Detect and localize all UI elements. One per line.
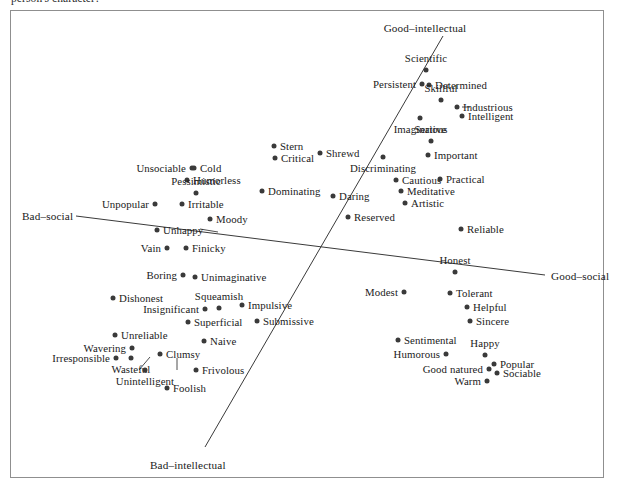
data-point-label: Serious bbox=[414, 124, 447, 135]
data-point-label: Warm bbox=[454, 376, 481, 387]
data-point-label: Important bbox=[434, 150, 477, 161]
data-point bbox=[485, 379, 490, 384]
data-point bbox=[448, 291, 453, 296]
data-point-label: Sentimental bbox=[404, 335, 457, 346]
data-point bbox=[394, 178, 399, 183]
data-point bbox=[194, 368, 199, 373]
data-point bbox=[429, 139, 434, 144]
data-point-label: Boring bbox=[146, 270, 177, 281]
data-point-label: Moody bbox=[216, 214, 248, 225]
data-point-label: Practical bbox=[446, 174, 485, 185]
data-point-label: Skillful bbox=[424, 83, 457, 94]
data-point bbox=[111, 296, 116, 301]
data-point bbox=[402, 290, 407, 295]
data-point-label: Dominating bbox=[268, 186, 321, 197]
data-point bbox=[202, 339, 207, 344]
data-point-label: Unpopular bbox=[102, 199, 149, 210]
data-point bbox=[453, 270, 458, 275]
data-point bbox=[165, 246, 170, 251]
data-point-label: Cold bbox=[200, 163, 221, 174]
data-point-label: Stern bbox=[280, 141, 303, 152]
data-point bbox=[184, 246, 189, 251]
data-point-label: Unimaginative bbox=[201, 272, 266, 283]
data-point bbox=[217, 306, 222, 311]
data-point bbox=[186, 320, 191, 325]
data-point bbox=[399, 189, 404, 194]
bad-social-label: Bad–social bbox=[22, 210, 73, 222]
data-point bbox=[495, 371, 500, 376]
data-point-label: Squeamish bbox=[195, 291, 243, 302]
data-point bbox=[346, 215, 351, 220]
data-point-label: Persistent bbox=[373, 79, 416, 90]
data-point-label: Vain bbox=[141, 243, 161, 254]
good-intellectual-label: Good–intellectual bbox=[384, 22, 467, 34]
data-point bbox=[208, 217, 213, 222]
data-point bbox=[459, 227, 464, 232]
data-point bbox=[260, 189, 265, 194]
data-point bbox=[455, 105, 460, 110]
data-point-label: Finicky bbox=[192, 243, 226, 254]
data-point-label: Sincere bbox=[476, 316, 509, 327]
data-point bbox=[180, 202, 185, 207]
data-point bbox=[460, 114, 465, 119]
data-point-label: Reliable bbox=[467, 224, 504, 235]
data-point-label: Critical bbox=[281, 153, 314, 164]
scatter-plot-canvas bbox=[0, 0, 618, 493]
data-point-label: Discriminating bbox=[350, 163, 416, 174]
data-point-label: Foolish bbox=[173, 383, 206, 394]
data-point-label: Unsociable bbox=[136, 163, 186, 174]
data-point-label: Naive bbox=[210, 336, 236, 347]
data-point-label: Tolerant bbox=[456, 288, 493, 299]
data-point bbox=[155, 228, 160, 233]
data-point bbox=[114, 356, 119, 361]
data-point-label: Irritable bbox=[188, 199, 224, 210]
data-point bbox=[273, 156, 278, 161]
data-point bbox=[193, 275, 198, 280]
data-point bbox=[165, 386, 170, 391]
data-point bbox=[203, 307, 208, 312]
data-point bbox=[255, 319, 260, 324]
data-point-label: Shrewd bbox=[326, 148, 360, 159]
data-point bbox=[483, 353, 488, 358]
data-point-label: Modest bbox=[365, 287, 398, 298]
data-point-label: Daring bbox=[339, 191, 370, 202]
data-point-label: Intelligent bbox=[468, 111, 513, 122]
data-point-label: Artistic bbox=[411, 198, 444, 209]
data-point bbox=[192, 166, 197, 171]
data-point-label: Superficial bbox=[194, 317, 242, 328]
data-point bbox=[444, 352, 449, 357]
data-point bbox=[318, 151, 323, 156]
data-point bbox=[468, 319, 473, 324]
data-point-label: Frivolous bbox=[202, 365, 244, 376]
data-point bbox=[465, 305, 470, 310]
data-point bbox=[487, 367, 492, 372]
data-point bbox=[381, 155, 386, 160]
data-point bbox=[130, 346, 135, 351]
data-point-label: Submissive bbox=[263, 316, 314, 327]
data-point bbox=[438, 177, 443, 182]
bad-intellectual-label: Bad–intellectual bbox=[150, 459, 226, 471]
leader-line-group bbox=[139, 107, 470, 370]
data-point-label: Humorous bbox=[394, 349, 440, 360]
data-point-label: Pessimistic bbox=[171, 176, 221, 187]
data-point-label: Happy bbox=[470, 338, 499, 349]
data-point-label: Honest bbox=[439, 255, 470, 266]
data-point-label: Irresponsible bbox=[52, 353, 110, 364]
data-point bbox=[240, 303, 245, 308]
data-point-label: Clumsy bbox=[166, 349, 200, 360]
data-point-label: Good natured bbox=[423, 364, 483, 375]
data-point bbox=[153, 202, 158, 207]
data-point-label: Helpful bbox=[473, 302, 507, 313]
data-point bbox=[418, 116, 423, 121]
data-point bbox=[158, 352, 163, 357]
data-point bbox=[403, 201, 408, 206]
data-point bbox=[424, 68, 429, 73]
data-point-label: Insignificant bbox=[143, 304, 199, 315]
data-point bbox=[492, 362, 497, 367]
data-point bbox=[331, 194, 336, 199]
data-point bbox=[181, 273, 186, 278]
data-point bbox=[143, 368, 148, 373]
data-point bbox=[396, 338, 401, 343]
data-point-label: Unreliable bbox=[121, 330, 168, 341]
intellectual-axis bbox=[205, 36, 443, 447]
